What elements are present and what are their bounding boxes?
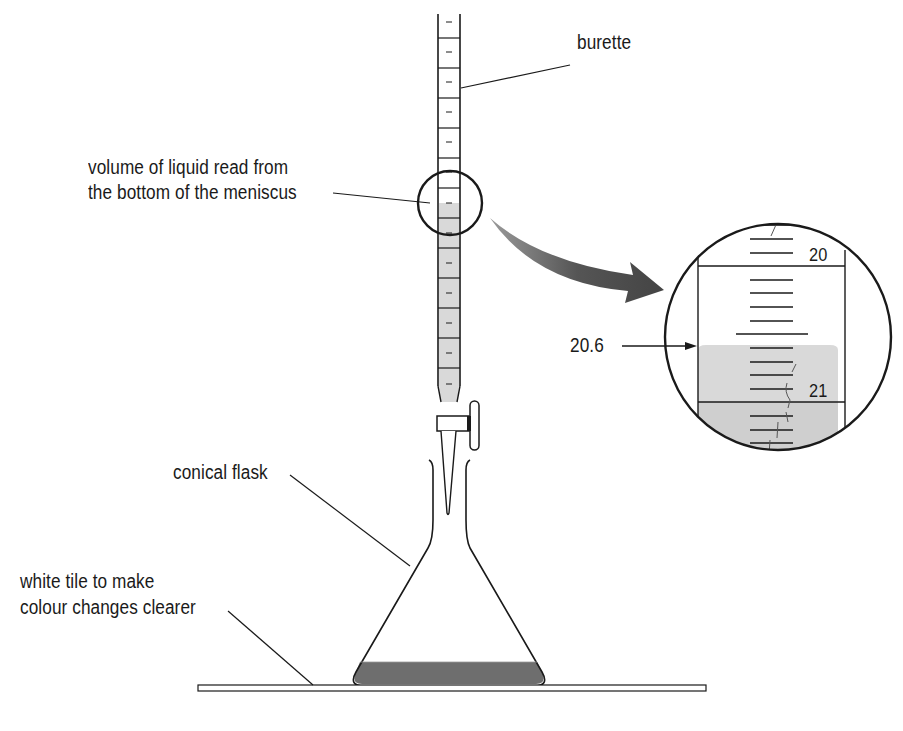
zoomed-burette-view [622, 218, 900, 472]
conical-flask-label: conical flask [173, 460, 268, 484]
tap-handle [470, 401, 479, 450]
scale-label-21: 21 [809, 379, 827, 403]
tile-label-line1: white tile to make [20, 569, 154, 593]
reading-value-label: 20.6 [570, 333, 604, 357]
meniscus-label-line1: volume of liquid read from [88, 155, 288, 179]
flask-leader [290, 475, 410, 566]
tap-collar [440, 402, 458, 416]
white-tile [198, 685, 706, 691]
burette-label: burette [577, 30, 631, 54]
burette-taper-liquid [439, 386, 459, 402]
burette-jet [441, 431, 456, 515]
burette-leader [461, 65, 570, 88]
tile-label-line2: colour changes clearer [20, 595, 196, 619]
burette-liquid [439, 203, 459, 386]
tile-leader [228, 611, 313, 685]
curved-arrow-icon [490, 218, 664, 303]
meniscus-leader [333, 193, 430, 203]
flask-liquid [354, 662, 543, 684]
titration-diagram [0, 0, 903, 731]
meniscus-label-line2: the bottom of the meniscus [88, 180, 297, 204]
burette [438, 14, 460, 402]
scale-label-20: 20 [809, 243, 827, 267]
burette-tap [437, 401, 479, 515]
tap-body [437, 416, 469, 431]
